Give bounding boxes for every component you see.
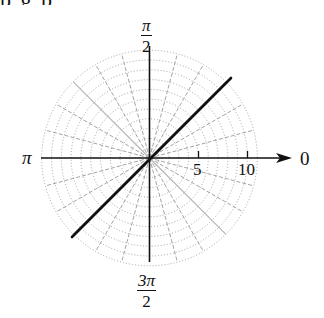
- grid-radial-line: [96, 65, 150, 158]
- tick-label-10: 10: [238, 161, 255, 178]
- label-pi-over-2-numerator: π: [141, 17, 152, 36]
- grid-radial-line: [150, 158, 178, 262]
- grid-radial-line: [56, 158, 149, 212]
- grid-radial-line: [150, 65, 204, 158]
- grid-radial-line: [150, 54, 178, 158]
- polar-plot: [0, 0, 324, 318]
- grid-radial-line: [150, 158, 226, 234]
- grid-radial-line: [56, 104, 149, 158]
- label-3pi-over-2-denominator: 2: [137, 291, 156, 310]
- tick-label-5: 5: [193, 161, 202, 178]
- label-pi-over-2: π 2: [141, 17, 152, 55]
- label-pi-over-2-denominator: 2: [141, 36, 152, 55]
- label-3pi-over-2-numerator: 3π: [137, 272, 156, 291]
- label-zero: 0: [300, 149, 310, 168]
- polar-graph-figure: p g p π 2 π 0 5 10 3π 2: [0, 0, 324, 318]
- grid-radial-line: [45, 158, 149, 186]
- grid-radial-line: [73, 82, 149, 158]
- grid-radial-line: [45, 130, 149, 158]
- label-pi: π: [22, 148, 32, 167]
- grid-radial-line: [122, 54, 150, 158]
- label-3pi-over-2: 3π 2: [137, 272, 156, 310]
